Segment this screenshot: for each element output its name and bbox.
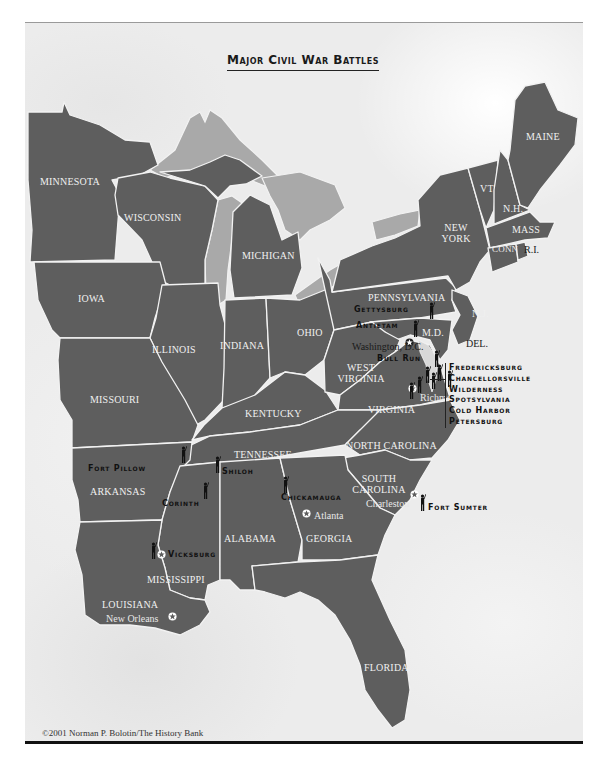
label-massachusetts: MASS — [512, 224, 540, 235]
soldier-icon-gettysburg — [428, 302, 435, 320]
label-wisconsin: WISCONSIN — [124, 212, 181, 223]
label-west-virginia: WEST VIRGINIA — [336, 362, 386, 384]
soldier-icon-shiloh — [214, 456, 221, 474]
label-mississippi: MISSISSIPPI — [147, 574, 205, 585]
label-louisiana: LOUISIANA — [102, 599, 158, 610]
battle-antietam: Antietam — [356, 322, 398, 330]
soldier-icon-fort-pillow — [180, 446, 187, 464]
star-icon-new-orleans — [168, 612, 177, 621]
battle-spotsylvania: Spotsylvania — [449, 395, 531, 406]
battle-list-connector — [430, 379, 445, 380]
label-maryland: M.D. — [422, 327, 444, 338]
label-georgia: GEORGIA — [306, 533, 352, 544]
label-virginia: VIRGINIA — [368, 404, 415, 415]
city-charleston: Charleston — [366, 498, 409, 509]
battle-corinth: Corinth — [162, 500, 200, 508]
label-arkansas: ARKANSAS — [90, 486, 146, 497]
label-indiana: INDIANA — [220, 340, 264, 351]
star-icon-washington — [405, 338, 414, 347]
battle-shiloh: Shiloh — [222, 468, 254, 476]
label-ohio: OHIO — [297, 327, 323, 338]
label-maine: MAINE — [526, 131, 560, 142]
soldier-icon-vicksburg — [150, 542, 157, 560]
label-delaware: DEL. — [466, 338, 488, 349]
label-connecticut: CONN — [492, 245, 518, 255]
star-icon-atlanta — [302, 509, 311, 518]
label-rhode-island: R.I. — [524, 244, 539, 255]
battle-cold-harbor: Cold Harbor — [449, 406, 531, 417]
battle-gettysburg: Gettysburg — [354, 306, 409, 314]
star-icon-vicksburg — [157, 550, 166, 559]
label-florida: FLORIDA — [364, 662, 409, 673]
label-kentucky: KENTUCKY — [245, 408, 302, 419]
soldier-icon-wilderness — [430, 372, 437, 390]
label-michigan: MICHIGAN — [242, 250, 295, 261]
label-new-jersey: N.J. — [472, 308, 489, 319]
label-illinois: ILLINOIS — [152, 344, 196, 355]
bottom-rule — [25, 741, 583, 744]
battle-vicksburg: Vicksburg — [168, 551, 216, 559]
label-new-hampshire: N.H. — [503, 203, 523, 214]
battle-bull-run: Bull Run — [377, 355, 421, 363]
soldier-icon-corinth — [202, 482, 209, 500]
label-minnesota: MINNESOTA — [40, 176, 100, 187]
battle-fort-pillow: Fort Pillow — [88, 465, 146, 473]
battle-fort-sumter: Fort Sumter — [428, 504, 488, 512]
virginia-battle-list: Fredericksburg Chancellorsville Wilderne… — [445, 363, 531, 428]
soldier-icon-antietam — [412, 320, 419, 338]
battle-wilderness: Wilderness — [449, 385, 531, 396]
label-iowa: IOWA — [78, 293, 105, 304]
soldier-icon-spotsylvania — [416, 376, 423, 394]
label-tennessee: TENNESSEE — [234, 449, 292, 460]
label-north-carolina: NORTH CAROLINA — [346, 440, 437, 451]
label-vermont: VT — [480, 183, 494, 194]
battle-petersburg: Petersburg — [449, 417, 531, 428]
soldier-icon-fort-sumter — [419, 494, 426, 512]
battle-chickamauga: Chickamauga — [281, 494, 342, 502]
label-alabama: ALABAMA — [224, 533, 276, 544]
battle-chancellorsville: Chancellorsville — [449, 374, 531, 385]
soldier-icon-chickamauga — [282, 476, 289, 494]
star-icon-charleston — [410, 490, 419, 499]
label-new-york: NEW YORK — [436, 222, 476, 244]
copyright-notice: ©2001 Norman P. Bolotin/The History Bank — [42, 728, 203, 738]
battle-fredericksburg: Fredericksburg — [449, 363, 531, 374]
city-new-orleans: New Orleans — [106, 613, 158, 624]
soldier-icon-petersburg — [408, 382, 415, 400]
label-missouri: MISSOURI — [90, 394, 139, 405]
label-south-carolina: SOUTH CAROLINA — [344, 473, 414, 495]
city-atlanta: Atlanta — [314, 510, 343, 521]
